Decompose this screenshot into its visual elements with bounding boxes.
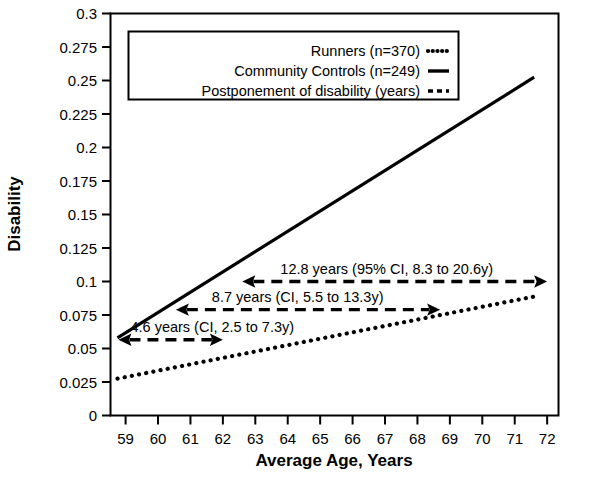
legend-label-postponement: Postponement of disability (years) bbox=[202, 83, 420, 99]
y-tick-label: 0.025 bbox=[59, 374, 97, 391]
x-tick-label: 60 bbox=[150, 430, 167, 447]
chart-legend: Runners (n=370) Community Controls (n=24… bbox=[129, 32, 459, 100]
legend-label-runners: Runners (n=370) bbox=[311, 43, 420, 59]
y-tick-label: 0.125 bbox=[59, 240, 97, 257]
x-tick-label: 70 bbox=[474, 430, 491, 447]
y-tick-label: 0 bbox=[89, 407, 97, 424]
y-tick-label: 0.25 bbox=[68, 72, 97, 89]
x-tick-label: 65 bbox=[312, 430, 329, 447]
x-tick-label: 64 bbox=[279, 430, 296, 447]
annotation-label: 4.6 years (CI, 2.5 to 7.3y) bbox=[130, 319, 294, 335]
x-tick-label: 61 bbox=[182, 430, 199, 447]
x-axis-title: Average Age, Years bbox=[255, 451, 412, 470]
y-tick-label: 0.15 bbox=[68, 206, 97, 223]
y-tick-label: 0.175 bbox=[59, 173, 97, 190]
y-tick-label: 0.3 bbox=[76, 5, 97, 22]
x-tick-label: 66 bbox=[344, 430, 361, 447]
annotation-label: 12.8 years (95% CI, 8.3 to 20.6y) bbox=[280, 261, 493, 277]
y-axis-title: Disability bbox=[5, 176, 24, 252]
y-tick-label: 0.2 bbox=[76, 139, 97, 156]
x-tick-label: 62 bbox=[215, 430, 232, 447]
x-tick-label: 68 bbox=[409, 430, 426, 447]
x-tick-label: 59 bbox=[117, 430, 134, 447]
y-tick-label: 0.05 bbox=[68, 340, 97, 357]
x-tick-label: 67 bbox=[377, 430, 394, 447]
y-tick-label: 0.225 bbox=[59, 106, 97, 123]
x-tick-label: 71 bbox=[506, 430, 523, 447]
x-tick-label: 72 bbox=[539, 430, 556, 447]
y-tick-label: 0.275 bbox=[59, 39, 97, 56]
x-tick-label: 63 bbox=[247, 430, 264, 447]
y-tick-label: 0.075 bbox=[59, 307, 97, 324]
x-tick-label: 69 bbox=[442, 430, 459, 447]
y-tick-label: 0.1 bbox=[76, 273, 97, 290]
chart-figure: 00.0250.050.0750.10.1250.150.1750.20.225… bbox=[0, 0, 592, 480]
annotation-label: 8.7 years (CI, 5.5 to 13.3y) bbox=[212, 289, 384, 305]
legend-label-community-controls: Community Controls (n=249) bbox=[234, 63, 420, 79]
disability-vs-age-line-chart: 00.0250.050.0750.10.1250.150.1750.20.225… bbox=[0, 0, 592, 480]
